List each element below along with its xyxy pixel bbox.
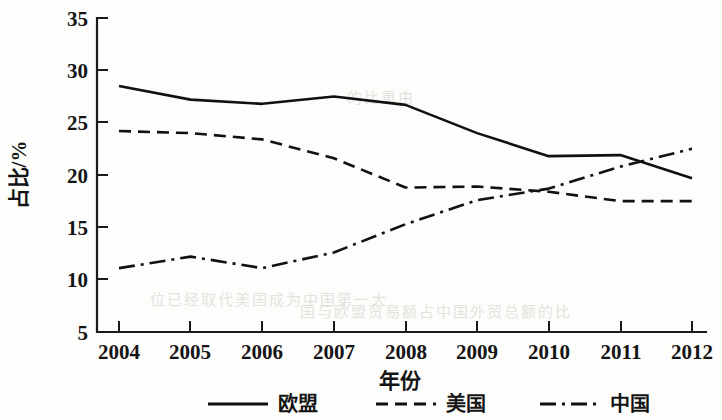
x-tick-label-2012: 2012 — [671, 340, 713, 364]
y-axis-title: 占比/% — [7, 141, 31, 210]
x-tick-label-2004: 2004 — [98, 340, 141, 364]
axis-lines — [97, 18, 706, 332]
y-axis-ticks — [97, 18, 108, 332]
legend-label-usa: 美国 — [446, 392, 486, 415]
x-tick-label-2006: 2006 — [241, 340, 283, 364]
x-tick-label-2007: 2007 — [313, 340, 355, 364]
chart-container: 一的比重由 位已经取代美国成为中国第一大 国与欧盟贸易额占中国外贸总额的比 35… — [0, 0, 722, 420]
x-tick-label-2011: 2011 — [601, 340, 642, 364]
series-line-eu — [119, 86, 692, 178]
y-tick-label-35: 35 — [67, 7, 88, 31]
x-tick-label-2008: 2008 — [385, 340, 427, 364]
x-axis-ticks — [119, 321, 692, 332]
legend-label-eu: 欧盟 — [278, 392, 318, 415]
legend: 欧盟 美国 中国 — [208, 392, 650, 415]
y-tick-label-20: 20 — [67, 164, 88, 188]
y-tick-label-25: 25 — [67, 111, 88, 135]
y-tick-label-10: 10 — [67, 268, 88, 292]
y-tick-label-15: 15 — [67, 216, 88, 240]
series-line-usa — [119, 131, 692, 201]
y-tick-label-30: 30 — [67, 59, 88, 83]
x-tick-label-2009: 2009 — [456, 340, 498, 364]
y-tick-label-5: 5 — [78, 321, 89, 345]
line-chart: 35 30 25 20 15 10 5 占比/% 2004 2005 2006 … — [0, 0, 722, 420]
x-axis-title: 年份 — [379, 369, 422, 393]
x-tick-label-2005: 2005 — [169, 340, 211, 364]
series-line-china — [119, 149, 692, 268]
legend-label-china: 中国 — [610, 392, 650, 415]
x-tick-label-2010: 2010 — [528, 340, 570, 364]
